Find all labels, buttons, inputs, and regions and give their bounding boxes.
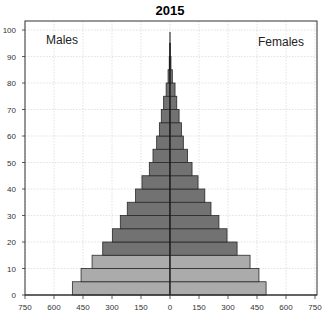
x-tick-label: 150 — [192, 303, 206, 312]
x-tick-label: 300 — [221, 303, 235, 312]
bar-male-75-79 — [166, 83, 170, 96]
bar-male-15-19 — [103, 242, 170, 255]
bar-male-65-69 — [161, 110, 170, 123]
bar-female-40-44 — [170, 176, 198, 189]
bar-female-75-79 — [170, 83, 175, 96]
bar-female-60-64 — [170, 123, 181, 136]
x-tick-label: 450 — [250, 303, 264, 312]
males-label: Males — [46, 33, 78, 47]
y-axis-ticks: 0102030405060708090100 — [3, 26, 25, 300]
y-tick-label: 20 — [7, 238, 16, 247]
bar-male-5-9 — [81, 269, 170, 282]
y-tick-label: 10 — [7, 265, 16, 274]
x-axis-ticks: 7506004503001500150300450600750 — [18, 295, 322, 312]
bar-female-70-74 — [170, 96, 177, 109]
bar-male-35-39 — [136, 189, 170, 202]
bar-male-45-49 — [149, 163, 170, 176]
bar-female-15-19 — [170, 242, 237, 255]
bar-male-70-74 — [164, 96, 170, 109]
y-tick-label: 60 — [7, 132, 16, 141]
y-tick-label: 80 — [7, 79, 16, 88]
bar-female-35-39 — [170, 189, 205, 202]
bars — [72, 43, 266, 295]
bar-female-5-9 — [170, 269, 259, 282]
x-tick-label: 150 — [134, 303, 148, 312]
chart-title: 2015 — [156, 3, 185, 18]
y-tick-label: 50 — [7, 159, 16, 168]
bar-female-10-14 — [170, 255, 250, 268]
y-tick-label: 70 — [7, 106, 16, 115]
y-tick-label: 100 — [3, 26, 17, 35]
females-label: Females — [258, 35, 304, 49]
bar-female-45-49 — [170, 163, 192, 176]
bar-male-30-34 — [127, 202, 170, 215]
x-tick-label: 600 — [279, 303, 293, 312]
bar-male-40-44 — [142, 176, 170, 189]
bar-female-65-69 — [170, 110, 179, 123]
bar-male-60-64 — [159, 123, 170, 136]
bar-male-10-14 — [92, 255, 170, 268]
bar-female-25-29 — [170, 216, 219, 229]
y-tick-label: 40 — [7, 185, 16, 194]
population-pyramid-chart: 2015 0102030405060708090100 750600450300… — [0, 0, 326, 320]
bar-female-30-34 — [170, 202, 211, 215]
y-tick-label: 30 — [7, 212, 16, 221]
x-tick-label: 600 — [47, 303, 61, 312]
bar-female-50-54 — [170, 149, 188, 162]
x-tick-label: 750 — [18, 303, 32, 312]
x-tick-label: 300 — [105, 303, 119, 312]
bar-male-50-54 — [153, 149, 170, 162]
x-tick-label: 0 — [168, 303, 173, 312]
x-tick-label: 450 — [76, 303, 90, 312]
y-tick-label: 90 — [7, 53, 16, 62]
bar-male-25-29 — [120, 216, 170, 229]
bar-male-20-24 — [112, 229, 170, 242]
bar-male-55-59 — [157, 136, 170, 149]
y-tick-label: 0 — [12, 291, 17, 300]
bar-female-20-24 — [170, 229, 227, 242]
bar-male-0-4 — [72, 282, 170, 295]
x-tick-label: 750 — [308, 303, 322, 312]
bar-female-55-59 — [170, 136, 183, 149]
bar-female-0-4 — [170, 282, 266, 295]
